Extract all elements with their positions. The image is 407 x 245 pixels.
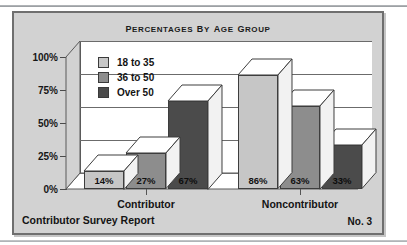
y-tick-label-25: 25% [18, 151, 58, 162]
bar-side-face [208, 85, 222, 189]
legend-item-3: Over 50 [98, 85, 154, 99]
bar-front-face [238, 75, 278, 189]
bar-contributor-18-to-35: 14% [84, 171, 124, 189]
page-bottom-rule [0, 240, 407, 242]
x-category-label-noncontributor: Noncontributor [262, 198, 338, 210]
legend-label-2: 36 to 50 [117, 72, 154, 83]
footer-caption: Contributor Survey Report [22, 214, 154, 226]
page-top-rule [0, 5, 407, 7]
y-axis: 0%25%50%75%100% [14, 41, 58, 189]
bar-side-face [278, 59, 292, 189]
footer-number: No. 3 [348, 216, 372, 227]
y-tick-label-0: 0% [18, 184, 58, 195]
chart-title: PERCENTAGES BY AGE GROUP [14, 20, 382, 35]
bar-noncontributor-18-to-35: 86% [238, 75, 278, 189]
plot-area: 18 to 3536 to 50Over 50 14%27%67%86%63%3… [66, 41, 372, 189]
bar-value-label: 86% [238, 175, 278, 186]
legend-label-3: Over 50 [117, 87, 154, 98]
bar-side-face [320, 90, 334, 189]
y-tick-label-50: 50% [18, 118, 58, 129]
y-tick-label-100: 100% [18, 52, 58, 63]
legend-swatch-2 [98, 72, 109, 83]
legend-label-1: 18 to 35 [117, 57, 154, 68]
y-tick-label-75: 75% [18, 85, 58, 96]
x-category-label-contributor: Contributor [117, 198, 175, 210]
legend-swatch-1 [98, 57, 109, 68]
legend-item-1: 18 to 35 [98, 55, 154, 69]
bar-value-label: 14% [84, 175, 124, 186]
gridline-100 [80, 41, 372, 42]
chart-figure: PERCENTAGES BY AGE GROUP 0%25%50%75%100%… [12, 11, 384, 235]
chart-legend: 18 to 3536 to 50Over 50 [98, 55, 154, 100]
legend-swatch-3 [98, 87, 109, 98]
legend-item-2: 36 to 50 [98, 70, 154, 84]
